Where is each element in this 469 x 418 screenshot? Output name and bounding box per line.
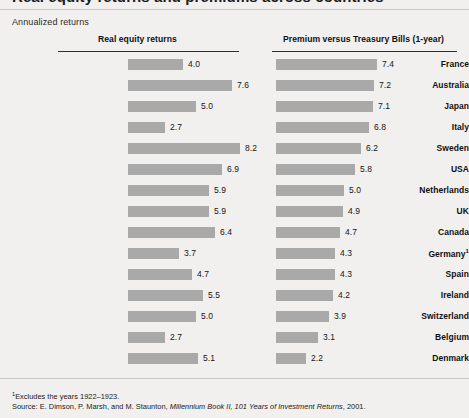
- chart-row: Sweden8.26.2: [0, 140, 469, 161]
- bar-group-right: 7.4: [276, 57, 466, 76]
- chart-row: Italy2.76.8: [0, 119, 469, 140]
- bar-group-right: 5.8: [276, 162, 466, 181]
- bar: [276, 227, 340, 238]
- bar: [276, 353, 306, 364]
- bar-value-label: 5.8: [360, 164, 372, 174]
- bar-group-right: 4.3: [276, 267, 466, 286]
- column-header-real-equity-returns: Real equity returns: [98, 34, 177, 44]
- footnote-text: Excludes the years 1922–1923.: [15, 392, 119, 401]
- chart-panel: Annualized returns Real equity returns P…: [0, 9, 469, 379]
- chart-row: France4.07.4: [0, 56, 469, 77]
- bar-group-right: 5.0: [276, 183, 466, 202]
- chart-row: Spain4.74.3: [0, 266, 469, 287]
- bar-group-right: 6.8: [276, 120, 466, 139]
- bar-group-right: 7.2: [276, 78, 466, 97]
- bar: [276, 185, 344, 196]
- source-year: , 2001.: [343, 402, 366, 411]
- bar-value-label: 5.5: [208, 290, 220, 300]
- chart-row: USA6.95.8: [0, 161, 469, 182]
- bar-group-left: 5.1: [128, 351, 288, 370]
- column-header-premium-treasury-bills: Premium versus Treasury Bills (1-year): [283, 34, 444, 44]
- chart-row: Switzerland5.03.9: [0, 308, 469, 329]
- chart-row: Belgium2.73.1: [0, 329, 469, 350]
- chart-row: Germany13.74.3: [0, 245, 469, 266]
- bar-value-label: 4.9: [348, 206, 360, 216]
- bar-group-left: 2.7: [128, 330, 288, 349]
- bar-group-right: 4.3: [276, 246, 466, 265]
- bar: [128, 164, 222, 175]
- bar-group-right: 6.2: [276, 141, 466, 160]
- chart-row: Ireland5.54.2: [0, 287, 469, 308]
- bar-group-right: 4.2: [276, 288, 466, 307]
- source-authors: E. Dimson, P. Marsh, and M. Staunton,: [40, 402, 170, 411]
- bar-value-label: 5.9: [214, 185, 226, 195]
- bar-group-left: 8.2: [128, 141, 288, 160]
- bar: [128, 353, 198, 364]
- bar: [128, 269, 192, 280]
- bar: [276, 248, 335, 259]
- notes-block: 1Excludes the years 1922–1923. Source: E…: [12, 390, 462, 412]
- footnote: 1Excludes the years 1922–1923.: [12, 390, 462, 402]
- bar-value-label: 4.3: [340, 269, 352, 279]
- bar: [128, 80, 232, 91]
- bar: [128, 227, 215, 238]
- bar: [276, 122, 369, 133]
- bar-group-left: 4.7: [128, 267, 288, 286]
- bar-value-label: 5.9: [214, 206, 226, 216]
- bar-group-right: 3.1: [276, 330, 466, 349]
- bar-value-label: 5.1: [203, 353, 215, 363]
- bar: [128, 122, 165, 133]
- bar: [128, 143, 240, 154]
- bar-value-label: 2.2: [311, 353, 323, 363]
- column-headers: Real equity returns Premium versus Treas…: [0, 34, 469, 48]
- bar: [276, 269, 335, 280]
- chart-rows: France4.07.4Australia7.67.2Japan5.07.1It…: [0, 56, 469, 371]
- bar-group-right: 7.1: [276, 99, 466, 118]
- bar: [128, 185, 209, 196]
- bar-group-left: 7.6: [128, 78, 288, 97]
- bar-value-label: 4.7: [345, 227, 357, 237]
- bar-value-label: 3.7: [184, 248, 196, 258]
- chart-subtitle: Annualized returns: [12, 17, 89, 27]
- bar: [276, 290, 333, 301]
- bar-group-left: 3.7: [128, 246, 288, 265]
- bar: [128, 101, 196, 112]
- bar: [276, 164, 355, 175]
- bar-group-left: 6.9: [128, 162, 288, 181]
- bar: [128, 332, 165, 343]
- bar: [128, 59, 183, 70]
- figure-title: Real equity returns and premiums across …: [12, 0, 384, 5]
- bar: [276, 101, 373, 112]
- chart-row: Canada6.44.7: [0, 224, 469, 245]
- figure-title-clipped: Real equity returns and premiums across …: [0, 0, 469, 9]
- bar-group-left: 5.0: [128, 309, 288, 328]
- chart-row: Netherlands5.95.0: [0, 182, 469, 203]
- bar-value-label: 7.6: [237, 80, 249, 90]
- row-label-footnote-marker: 1: [466, 248, 469, 254]
- bar: [276, 143, 361, 154]
- bar: [276, 59, 377, 70]
- bar-group-left: 6.4: [128, 225, 288, 244]
- source-label: Source:: [12, 402, 40, 411]
- bar: [128, 206, 209, 217]
- bar: [128, 290, 203, 301]
- bar: [128, 248, 179, 259]
- bar-value-label: 6.8: [374, 122, 386, 132]
- bar-value-label: 7.2: [379, 80, 391, 90]
- bar-value-label: 4.2: [338, 290, 350, 300]
- column-rule-left: [58, 51, 239, 52]
- bar-value-label: 7.4: [382, 59, 394, 69]
- bar-value-label: 8.2: [245, 143, 257, 153]
- bar-value-label: 3.9: [334, 311, 346, 321]
- bar-value-label: 2.7: [170, 122, 182, 132]
- bar-value-label: 4.0: [188, 59, 200, 69]
- bar-value-label: 5.0: [201, 101, 213, 111]
- bar: [128, 311, 196, 322]
- bar-group-left: 5.9: [128, 204, 288, 223]
- bar-value-label: 6.4: [220, 227, 232, 237]
- bar-group-right: 3.9: [276, 309, 466, 328]
- bar: [276, 206, 343, 217]
- bar-value-label: 7.1: [378, 101, 390, 111]
- chart-row: UK5.94.9: [0, 203, 469, 224]
- chart-row: Denmark5.12.2: [0, 350, 469, 371]
